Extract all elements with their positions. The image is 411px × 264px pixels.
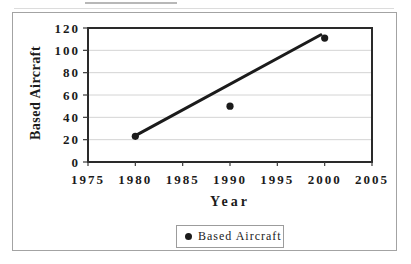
x-tick-label: 2005 <box>355 172 389 187</box>
trend-line <box>138 35 321 134</box>
x-tick-label: 1995 <box>260 172 294 187</box>
y-tick-label: 0 <box>72 155 81 170</box>
filled-circle-marker-icon <box>185 233 192 240</box>
data-point <box>321 34 328 41</box>
y-tick-label: 100 <box>55 43 81 58</box>
scanned-chart-page: 0204060801001201975198019851990199520002… <box>0 0 411 264</box>
y-axis-title: Based Aircraft <box>28 46 44 140</box>
x-axis-title: Year <box>210 194 250 210</box>
y-tick-label: 40 <box>63 110 80 125</box>
x-tick-label: 1980 <box>118 172 152 187</box>
y-tick-label: 60 <box>63 88 80 103</box>
x-tick-label: 1990 <box>213 172 247 187</box>
y-tick-label: 80 <box>63 65 80 80</box>
data-point <box>226 103 233 110</box>
y-tick-label: 20 <box>63 132 80 147</box>
x-tick-label: 1985 <box>166 172 200 187</box>
x-tick-label: 1975 <box>71 172 105 187</box>
data-point <box>132 133 139 140</box>
legend: Based Aircraft <box>176 225 284 248</box>
x-tick-label: 2000 <box>308 172 342 187</box>
legend-label: Based Aircraft <box>198 229 282 244</box>
y-tick-label: 120 <box>55 21 81 36</box>
